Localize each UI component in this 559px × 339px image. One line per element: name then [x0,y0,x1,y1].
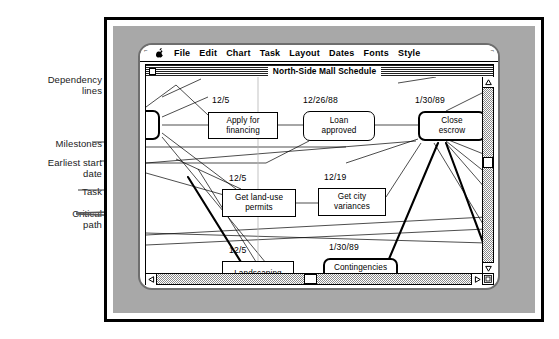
resize-grip-icon[interactable] [482,273,493,284]
menu-item-file[interactable]: File [174,48,190,58]
node-line-2: approved [322,126,357,136]
macintosh-computer: File Edit Chart Task Layout Dates Fonts … [104,17,544,322]
menu-item-layout[interactable]: Layout [289,48,320,58]
menu-item-fonts[interactable]: Fonts [364,48,390,58]
close-box[interactable] [149,68,156,75]
chart-node-get-land-use-permits[interactable]: Get land-use permits [222,189,296,217]
chart-node-get-city-variances[interactable]: Get city variances [318,188,386,216]
date-label-landscaping: 12/5 [229,245,247,255]
node-line-2: financing [226,126,260,136]
document-window: North-Side Mall Schedule [145,64,494,285]
date-label-variances: 12/19 [324,172,347,182]
scroll-right-arrow-icon[interactable] [471,274,482,285]
annotation-line: Earliest start [6,157,102,168]
menu-item-chart[interactable]: Chart [226,48,251,58]
node-line-1: Close [439,116,466,126]
chart-canvas[interactable]: 12/5 12/26/88 1/30/89 12/5 12/19 12/5 1/… [146,77,482,273]
annotation-milestones: Milestones [6,138,102,149]
screen-corner-mark-right: ¬ [490,47,494,53]
vertical-scrollbar-track[interactable] [483,88,493,262]
annotation-line: Critical [6,208,102,219]
annotation-dependency-lines: Dependency lines [6,74,102,96]
annotation-line: Task [6,186,102,197]
vertical-scrollbar-thumb[interactable] [483,157,493,168]
annotation-line: lines [6,85,102,96]
menu-bar[interactable]: File Edit Chart Task Layout Dates Fonts … [140,45,498,62]
menu-item-style[interactable]: Style [398,48,421,58]
scroll-left-arrow-icon[interactable] [146,274,157,285]
screenshot-root: Dependency lines Milestones Earliest sta… [0,0,559,339]
date-label-contingencies: 1/30/89 [329,242,359,252]
node-line-1: Contingencies [334,263,387,273]
node-line-2: escrow [439,126,466,136]
menu-item-edit[interactable]: Edit [199,48,217,58]
annotation-line: Milestones [6,138,102,149]
node-line-1: Apply for [226,116,260,126]
node-line-1: Loan [322,116,357,126]
annotation-critical-path: Critical path [6,208,102,230]
chart-node-start-milestone[interactable] [146,110,160,140]
date-label-permits: 12/5 [229,173,247,183]
macintosh-screen: File Edit Chart Task Layout Dates Fonts … [138,43,500,290]
dependency-line-layer [146,77,482,273]
apple-icon[interactable] [156,48,165,58]
scroll-up-arrow-icon[interactable] [483,77,494,88]
date-label-apply: 12/5 [212,95,230,105]
node-line-1: Get land-use [235,193,283,203]
screen-corner-mark-left: ⌐ [144,47,148,53]
annotation-earliest-start-date: Earliest start date [6,157,102,179]
chart-node-close-escrow[interactable]: Close escrow [418,111,482,141]
menu-item-task[interactable]: Task [260,48,281,58]
menu-item-dates[interactable]: Dates [329,48,355,58]
annotation-line: path [6,219,102,230]
annotation-line: date [6,168,102,179]
chart-node-landscaping[interactable]: Landscaping [222,261,294,273]
annotation-line: Dependency [6,74,102,85]
horizontal-scrollbar[interactable] [146,273,482,284]
date-label-loan: 12/26/88 [303,95,338,105]
chart-node-contingencies-satisfied[interactable]: Contingencies satisfied [323,258,398,273]
vertical-scrollbar[interactable] [482,77,493,273]
window-title: North-Side Mall Schedule [268,66,381,76]
scroll-down-arrow-icon[interactable] [483,262,494,273]
horizontal-scrollbar-thumb[interactable] [304,274,317,284]
chart-node-loan-approved[interactable]: Loan approved [303,111,375,141]
date-label-escrow: 1/30/89 [415,95,445,105]
chart-node-apply-for-financing[interactable]: Apply for financing [208,112,278,139]
node-line-1: Get city [334,192,370,202]
annotation-task: Task [6,186,102,197]
node-line-2: permits [235,203,283,213]
node-line-2: variances [334,202,370,212]
